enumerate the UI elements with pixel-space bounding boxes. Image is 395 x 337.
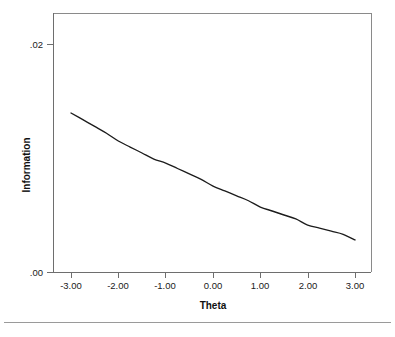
information-function-plot: .02 .00 -3.00 -2.00 -1.00 0.00 1.00 2.00… [0, 0, 395, 337]
y-axis-title: Information [21, 138, 32, 193]
y-tick-label-upper: .02 [30, 39, 43, 50]
y-tick-label-lower: .00 [30, 267, 43, 278]
x-axis-title: Theta [200, 300, 227, 311]
information-curve [71, 113, 355, 240]
x-tick-label-2.00: 2.00 [299, 280, 318, 291]
x-tick-label--2.00: -2.00 [107, 280, 129, 291]
x-tick-label--3.00: -3.00 [60, 280, 82, 291]
plot-frame-border [53, 13, 371, 272]
x-tick-label-1.00: 1.00 [251, 280, 270, 291]
x-tick-label-0.00: 0.00 [204, 280, 223, 291]
chart-figure: .02 .00 -3.00 -2.00 -1.00 0.00 1.00 2.00… [0, 0, 395, 337]
x-tick-label--1.00: -1.00 [154, 280, 176, 291]
x-tick-label-3.00: 3.00 [346, 280, 365, 291]
